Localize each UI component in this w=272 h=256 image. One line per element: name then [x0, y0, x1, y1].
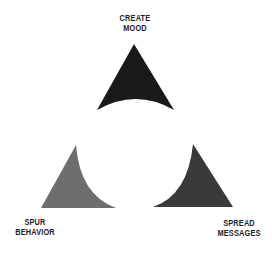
create-mood-shape [97, 44, 174, 110]
spread-messages-label-line-1: SPREAD [215, 218, 263, 228]
spur-behavior-label: SPUR BEHAVIOR [15, 217, 56, 237]
spread-messages-label: SPREAD MESSAGES [215, 218, 263, 238]
spread-messages-label-line-2: MESSAGES [215, 228, 263, 238]
create-mood-label: CREATE MOOD [117, 13, 153, 33]
spur-behavior-label-line-1: SPUR [15, 217, 56, 227]
create-mood-label-line-2: MOOD [117, 23, 153, 33]
create-mood-label-line-1: CREATE [117, 13, 153, 23]
spur-behavior-shape [41, 145, 116, 208]
spread-messages-shape [153, 144, 233, 207]
spur-behavior-label-line-2: BEHAVIOR [15, 227, 56, 237]
triangle-diagram: CREATE MOOD SPUR BEHAVIOR SPREAD MESSAGE… [0, 0, 272, 256]
